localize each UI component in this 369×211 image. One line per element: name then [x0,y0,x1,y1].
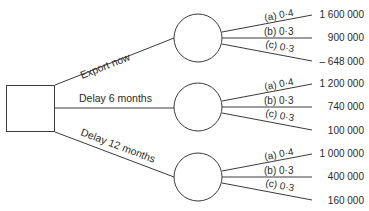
outcome-prob-label: (b) 0·3 [264,26,294,37]
outcome-prob-label: (b) 0·3 [264,95,294,106]
chance-node-group-3: (a) 0·4 (b) 0·3 (c) 0·3 1 000 000 400 00… [174,146,364,206]
outcome-prob-label: (a) 0·4 [263,146,294,162]
chance-node-group-2: (a) 0·4 (b) 0·3 (c) 0·3 1 200 000 740 00… [174,76,364,136]
outcome-prob-label: (c) 0·3 [265,107,296,123]
outcome-prob-label: (a) 0·4 [263,7,294,23]
outcome-value: 1 600 000 [320,9,365,20]
outcome-value: 1 000 000 [320,148,365,159]
chance-node-circle [174,14,222,62]
option-export-now: Export now [55,38,174,85]
outcome-value: 740 000 [328,101,365,112]
option-delay-12-months: Delay 12 months [55,126,174,177]
outcome-value: 160 000 [328,195,365,206]
outcome-value: – 648 000 [320,56,365,67]
decision-node-square [7,86,55,132]
option-label-delay-6-months: Delay 6 months [79,92,152,104]
outcome-value: 1 200 000 [320,78,365,89]
chance-node-group-1: (a) 0·4 (b) 0·3 (c) 0·3 1 600 000 900 00… [174,7,364,67]
chance-node-circle [174,83,222,131]
outcome-prob-label: (c) 0·3 [265,177,296,193]
decision-tree-diagram: Export now Delay 6 months Delay 12 month… [0,0,369,211]
outcome-prob-label: (c) 0·3 [265,38,296,54]
outcome-value: 400 000 [328,171,365,182]
outcome-value: 100 000 [328,125,365,136]
outcome-prob-label: (b) 0·3 [264,165,294,176]
outcome-prob-label: (a) 0·4 [263,76,294,92]
chance-node-circle [174,153,222,201]
option-delay-6-months: Delay 6 months [55,92,174,108]
option-label-export-now: Export now [78,50,132,81]
outcome-value: 900 000 [328,32,365,43]
